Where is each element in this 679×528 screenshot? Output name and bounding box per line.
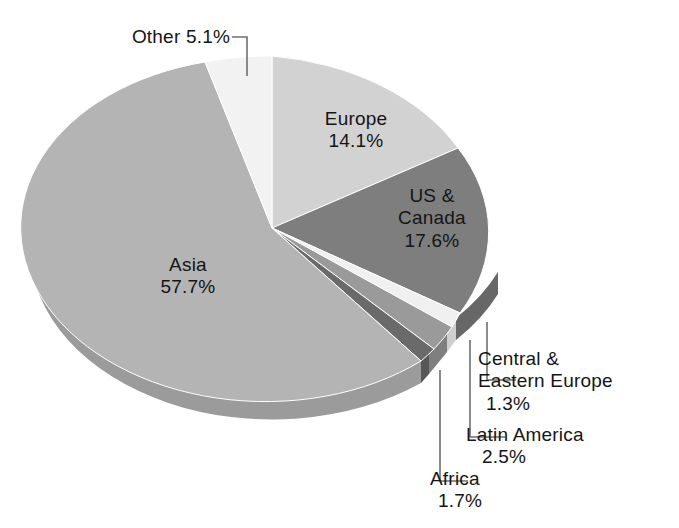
slice-label-europe: Europe 14.1% (296, 108, 416, 153)
slice-label-europe-name: Europe (296, 108, 416, 130)
slice-label-central-eastern-europe-line2: Eastern Europe (478, 370, 678, 392)
slice-label-other-value: 5.1% (186, 26, 230, 47)
slice-label-latin-america-value: 2.5% (466, 446, 666, 468)
slice-label-asia-name: Asia (128, 254, 248, 276)
slice-label-central-eastern-europe: Central & Eastern Europe 1.3% (478, 348, 678, 415)
pie-chart: Other 5.1% Europe 14.1% US & Canada 17.6… (0, 0, 679, 528)
slice-label-other-name: Other (132, 26, 186, 47)
slice-label-us-canada: US & Canada 17.6% (372, 185, 492, 252)
slice-label-us-canada-line2: Canada (372, 207, 492, 229)
slice-label-asia-value: 57.7% (128, 276, 248, 298)
slice-label-europe-value: 14.1% (296, 130, 416, 152)
slice-label-latin-america: Latin America 2.5% (466, 424, 666, 469)
leader-line-africa (440, 370, 468, 481)
slice-label-asia: Asia 57.7% (128, 254, 248, 299)
slice-label-africa: Africa 1.7% (430, 468, 630, 513)
slice-label-africa-name: Africa (430, 468, 630, 490)
slice-label-latin-america-name: Latin America (466, 424, 666, 446)
slice-label-us-canada-line1: US & (372, 185, 492, 207)
slice-label-central-eastern-europe-line1: Central & (478, 348, 678, 370)
slice-label-other: Other 5.1% (60, 26, 230, 48)
slice-label-us-canada-value: 17.6% (372, 230, 492, 252)
slice-label-africa-value: 1.7% (430, 490, 630, 512)
slice-label-central-eastern-europe-value: 1.3% (478, 393, 678, 415)
